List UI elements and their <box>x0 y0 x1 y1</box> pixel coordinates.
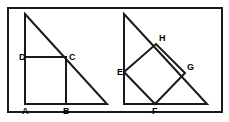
vertex-label-g: G <box>187 62 194 72</box>
geometry-diagram: DCAB HEGF <box>0 0 229 122</box>
vertex-label-h: H <box>159 33 166 43</box>
vertex-label-d: D <box>19 52 26 62</box>
vertex-label-e: E <box>117 67 123 77</box>
vertex-label-c: C <box>69 52 76 62</box>
vertex-label-f: F <box>152 106 158 116</box>
geometry-figure: DCAB HEGF <box>0 0 229 122</box>
vertex-label-b: B <box>63 106 70 116</box>
vertex-label-a: A <box>22 106 29 116</box>
